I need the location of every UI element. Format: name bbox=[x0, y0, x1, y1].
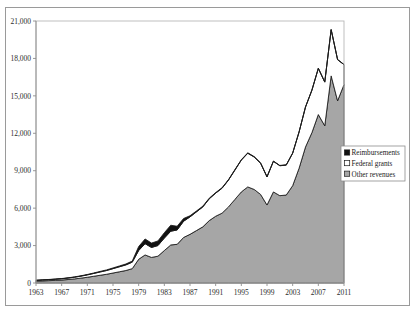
x-tick-label: 2007 bbox=[311, 288, 326, 297]
chart-legend[interactable]: ReimbursementsFederal grantsOther revenu… bbox=[341, 146, 405, 181]
x-tick-label: 1983 bbox=[157, 288, 172, 297]
y-axis-ticks: 03,0006,0009,00012,00015,00018,00021,000 bbox=[10, 17, 36, 288]
legend-label-federal-grants[interactable]: Federal grants bbox=[352, 160, 393, 168]
y-tick-label: 12,000 bbox=[10, 129, 31, 138]
x-tick-label: 1979 bbox=[131, 288, 146, 297]
legend-swatch-black bbox=[345, 150, 350, 155]
x-tick-label: 1991 bbox=[208, 288, 223, 297]
y-tick-label: 0 bbox=[27, 279, 31, 288]
x-tick-label: 1999 bbox=[260, 288, 275, 297]
x-tick-label: 1995 bbox=[234, 288, 249, 297]
stacked-area-chart: 03,0006,0009,00012,00015,00018,00021,000… bbox=[0, 0, 416, 312]
x-tick-label: 2011 bbox=[337, 288, 352, 297]
y-tick-label: 21,000 bbox=[10, 17, 31, 26]
figure-container: 03,0006,0009,00012,00015,00018,00021,000… bbox=[0, 0, 416, 312]
y-tick-label: 6,000 bbox=[14, 204, 31, 213]
legend-swatch-white bbox=[345, 161, 350, 166]
x-axis-ticks: 1963196719711975197919831987199119951999… bbox=[29, 283, 352, 297]
x-tick-label: 1971 bbox=[80, 288, 95, 297]
y-tick-label: 9,000 bbox=[14, 166, 31, 175]
x-tick-label: 2003 bbox=[285, 288, 300, 297]
x-tick-label: 1967 bbox=[54, 288, 69, 297]
y-tick-label: 3,000 bbox=[14, 241, 31, 250]
x-tick-label: 1987 bbox=[183, 288, 198, 297]
legend-label-other-revenues[interactable]: Other revenues bbox=[352, 171, 396, 179]
legend-label-reimbursements[interactable]: Reimbursements bbox=[352, 149, 401, 157]
y-tick-label: 15,000 bbox=[10, 92, 31, 101]
x-tick-label: 1963 bbox=[29, 288, 44, 297]
legend-swatch-gray bbox=[345, 171, 350, 176]
x-tick-label: 1975 bbox=[106, 288, 121, 297]
y-tick-label: 18,000 bbox=[10, 54, 31, 63]
